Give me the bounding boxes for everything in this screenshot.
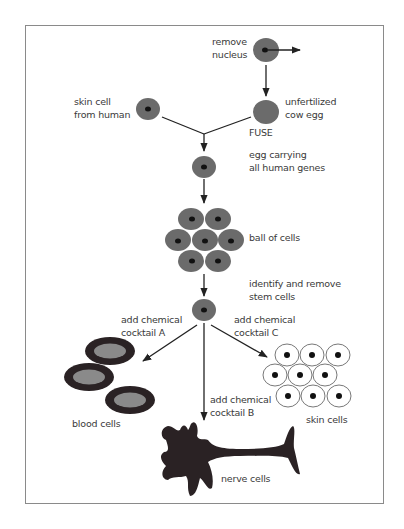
unfertilized-cow-egg-icon — [253, 100, 279, 124]
label-nerve-cells: nerve cells — [221, 473, 270, 486]
label-blood-cells: blood cells — [72, 418, 120, 431]
label-fuse: FUSE — [249, 127, 273, 140]
label-identify-remove-stem-cells: identify and remove stem cells — [249, 278, 341, 303]
enucleating-cow-egg-icon — [253, 38, 300, 62]
label-ball-of-cells: ball of cells — [249, 232, 300, 245]
skin-cells-icon — [263, 344, 351, 407]
label-skin-cells: skin cells — [306, 414, 347, 427]
stem-cell-icon — [192, 299, 216, 321]
label-cocktail-b: add chemical cocktail B — [210, 394, 271, 419]
label-egg-carrying-human-genes: egg carrying all human genes — [249, 149, 325, 174]
label-cocktail-a: add chemical cocktail A — [121, 314, 182, 339]
label-skin-cell-from-human: skin cell from human — [74, 96, 130, 121]
hybrid-egg-icon — [192, 156, 216, 178]
label-remove-nucleus: remove nucleus — [212, 36, 247, 61]
label-unfertilized-cow-egg: unfertilized cow egg — [285, 96, 336, 121]
human-skin-cell-icon — [136, 98, 160, 120]
blood-cells-icon — [64, 337, 155, 414]
cloning-diagram — [0, 0, 404, 529]
ball-of-cells-icon — [165, 208, 244, 272]
label-cocktail-c: add chemical cocktail C — [234, 314, 295, 339]
fuse-connector — [162, 117, 251, 151]
